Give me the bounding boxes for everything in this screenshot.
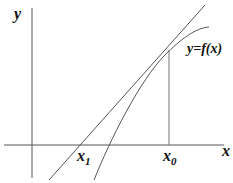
tangent-line [49, 5, 205, 180]
newton-method-diagram: y x y=f(x) x1 x0 [0, 0, 233, 183]
x0-label: x0 [162, 147, 177, 167]
y-axis-label: y [12, 5, 22, 23]
x-axis-label: x [221, 142, 230, 159]
x1-label: x1 [76, 147, 91, 167]
curve-label: y=f(x) [185, 41, 222, 57]
